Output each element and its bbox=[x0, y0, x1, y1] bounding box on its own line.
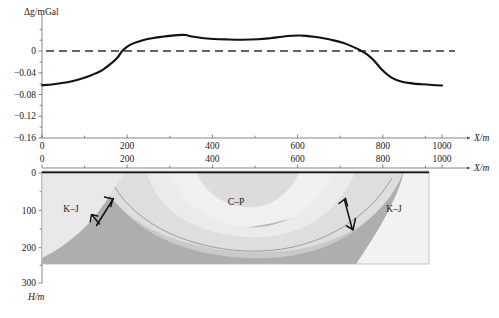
x-tick-label-top-2: 400 bbox=[205, 141, 220, 151]
y-axis-title: Δg/mGal bbox=[24, 7, 59, 17]
y-axis-ticks bbox=[39, 29, 43, 138]
unit-label-left-kj: K–J bbox=[63, 204, 79, 214]
y-tick-label-1: −0.04 bbox=[14, 68, 36, 78]
gravity-anomaly-panel: Δg/mGal 0 −0.04 −0.08 −0.12 −0.16 0 bbox=[14, 7, 489, 151]
x-tick-label-bottom-1: 200 bbox=[120, 154, 135, 164]
depth-axis-ticks bbox=[39, 173, 43, 283]
x-tick-label-bottom-4: 800 bbox=[376, 154, 391, 164]
depth-tick-label-0: 0 bbox=[31, 168, 36, 178]
x-axis-ticks-top bbox=[42, 135, 442, 139]
x-tick-label-bottom-3: 600 bbox=[290, 154, 305, 164]
scientific-figure: Δg/mGal 0 −0.04 −0.08 −0.12 −0.16 0 bbox=[0, 0, 499, 318]
depth-tick-label-3: 300 bbox=[22, 278, 37, 288]
x-axis-title-top: X/m bbox=[473, 133, 489, 143]
figure-canvas: Δg/mGal 0 −0.04 −0.08 −0.12 −0.16 0 bbox=[0, 0, 499, 318]
y-tick-label-0: 0 bbox=[31, 46, 36, 56]
unit-label-right-kj: K–J bbox=[386, 204, 402, 214]
depth-axis-title: H/m bbox=[27, 292, 45, 302]
x-tick-label-top-3: 600 bbox=[290, 141, 305, 151]
unit-label-cp-core: C–P bbox=[228, 197, 244, 207]
x-axis-ticks-bottom bbox=[42, 165, 442, 169]
y-tick-label-3: −0.12 bbox=[14, 111, 36, 121]
x-axis-title-bottom: X/m bbox=[473, 163, 489, 173]
cross-section-x-axis: 0 200 400 600 800 1000 X/m bbox=[40, 154, 490, 174]
x-tick-label-top-1: 200 bbox=[120, 141, 135, 151]
geological-cross-section-panel: 0 100 200 300 H/m bbox=[22, 168, 429, 302]
depth-tick-label-2: 200 bbox=[22, 243, 37, 253]
x-tick-label-top-0: 0 bbox=[40, 141, 45, 151]
x-tick-label-bottom-2: 400 bbox=[205, 154, 220, 164]
y-tick-label-2: −0.08 bbox=[14, 90, 36, 100]
anomaly-curve bbox=[42, 35, 442, 86]
y-tick-label-4: −0.16 bbox=[14, 133, 36, 143]
x-tick-label-top-4: 800 bbox=[376, 141, 391, 151]
x-tick-label-bottom-0: 0 bbox=[40, 154, 45, 164]
depth-tick-label-1: 100 bbox=[22, 206, 37, 216]
x-tick-label-top-5: 1000 bbox=[433, 141, 452, 151]
x-tick-label-bottom-5: 1000 bbox=[433, 154, 452, 164]
section-body bbox=[42, 171, 429, 264]
